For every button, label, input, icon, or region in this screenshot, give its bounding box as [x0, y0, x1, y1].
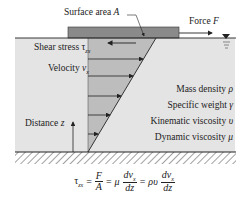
ground-hatch: [15, 152, 236, 164]
shear-stress-equation: τzx = F A = μ dvx dz = ρυ dvx dz: [0, 170, 249, 193]
property-specific-weight: Specific weight γ: [168, 101, 233, 111]
property-mass-density: Mass density ρ: [176, 85, 233, 95]
force-label: Force F: [189, 17, 219, 27]
velocity-label: Velocity vx: [48, 64, 89, 75]
surface-area-label: Surface area A: [64, 8, 119, 18]
property-kinematic-viscosity: Kinematic viscosity υ: [151, 117, 233, 127]
property-dynamic-viscosity: Dynamic viscosity μ: [155, 133, 233, 143]
distance-label: Distance z: [25, 119, 64, 129]
shear-stress-label: Shear stress τzx: [34, 43, 90, 54]
moving-plate: [68, 27, 179, 38]
